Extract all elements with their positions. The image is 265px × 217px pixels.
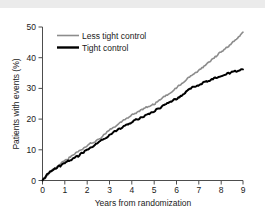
x-axis-ticks	[43, 181, 244, 185]
y-tick-label-20: 20	[27, 114, 37, 124]
x-axis-tick-labels: 0 1 2 3 4 5 6 7 8 9	[40, 185, 246, 195]
y-tick-label-50: 50	[27, 22, 37, 32]
survival-curve-figure: 0 10 20 30 40 50 0 1 2 3 4 5	[0, 0, 265, 217]
y-axis-ticks	[39, 27, 43, 181]
x-tick-label-9: 9	[241, 185, 246, 195]
x-tick-label-3: 3	[107, 185, 112, 195]
x-tick-label-0: 0	[40, 185, 45, 195]
x-axis-title: Years from randomization	[95, 198, 192, 208]
y-axis-title: Patients with events (%)	[11, 58, 21, 149]
legend-label-tight-control: Tight control	[82, 43, 129, 53]
y-axis-tick-labels: 0 10 20 30 40 50	[27, 22, 37, 186]
x-tick-label-1: 1	[62, 185, 67, 195]
series-line-tight-control	[43, 69, 244, 180]
legend-label-less-tight-control: Less tight control	[82, 31, 146, 41]
x-tick-label-8: 8	[219, 185, 224, 195]
y-tick-label-10: 10	[27, 145, 37, 155]
x-tick-label-2: 2	[85, 185, 90, 195]
y-tick-label-30: 30	[27, 83, 37, 93]
x-tick-label-7: 7	[196, 185, 201, 195]
chart-canvas: 0 10 20 30 40 50 0 1 2 3 4 5	[0, 0, 265, 217]
y-tick-label-0: 0	[31, 176, 36, 186]
x-tick-label-5: 5	[152, 185, 157, 195]
x-tick-label-6: 6	[174, 185, 179, 195]
x-tick-label-4: 4	[129, 185, 134, 195]
chart-legend: Less tight control Tight control	[57, 31, 146, 53]
y-tick-label-40: 40	[27, 53, 37, 63]
